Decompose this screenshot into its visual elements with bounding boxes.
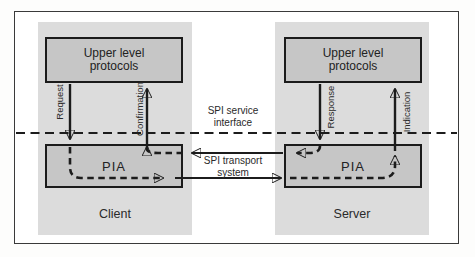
indication-label: Indication [401,92,412,133]
server-upper-box-label-line2: protocols [329,60,378,74]
confirmation-label: Confirmation [134,82,145,136]
client-region-label: Client [38,207,192,221]
spi-service-interface-label: SPI service interface [193,105,273,128]
spi-transport-system-label-line1: SPI transport [193,155,273,167]
request-label: Request [54,84,65,119]
client-upper-box-label-line1: Upper level [84,47,145,61]
spi-service-interface-label-line1: SPI service [193,105,273,117]
server-region-label: Server [275,207,429,221]
server-upper-box-label-line1: Upper level [323,47,384,61]
client-pia-box: PIA [45,144,183,188]
response-label: Response [325,86,336,129]
spi-service-interface-label-line2: interface [193,117,273,129]
figure-canvas: Upper level protocols Upper level protoc… [0,0,475,257]
client-upper-box-label-line2: protocols [90,60,139,74]
server-pia-box: PIA [284,144,422,188]
server-upper-protocols-box: Upper level protocols [284,37,422,83]
spi-transport-system-label-line2: system [193,167,273,179]
client-upper-protocols-box: Upper level protocols [45,37,183,83]
spi-transport-system-label: SPI transport system [193,155,273,178]
client-pia-label: PIA [102,159,126,174]
server-pia-label: PIA [341,159,365,174]
